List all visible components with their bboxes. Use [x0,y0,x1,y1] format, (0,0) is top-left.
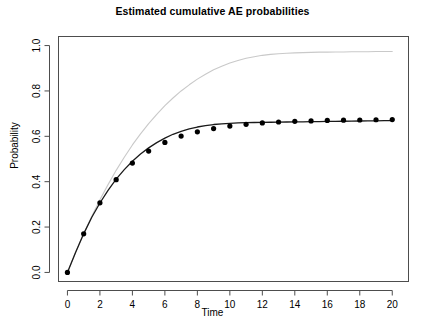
y-tick-label: 0.4 [31,174,42,188]
x-tick-label: 18 [354,299,366,310]
x-tick-label: 6 [162,299,168,310]
x-tick-label: 14 [289,299,301,310]
x-tick-label: 12 [257,299,269,310]
data-point [97,200,102,205]
y-tick-label: 0.2 [31,220,42,234]
data-point [227,124,232,129]
series-line [67,121,392,273]
data-point [211,126,216,131]
data-point [357,117,362,122]
plot-area: 024681012141618200.00.20.40.60.81.0 [0,0,425,330]
series-line [67,51,392,272]
x-tick-label: 8 [195,299,201,310]
data-point [325,118,330,123]
data-point [292,119,297,124]
x-tick-label: 10 [224,299,236,310]
data-point [308,118,313,123]
data-point [130,160,135,165]
data-point [179,133,184,138]
data-point [65,270,70,275]
data-point [373,117,378,122]
y-tick-label: 0.0 [31,265,42,279]
x-tick-label: 16 [322,299,334,310]
chart-figure: Estimated cumulative AE probabilities Ti… [0,0,425,330]
x-tick-label: 2 [97,299,103,310]
data-point [243,122,248,127]
y-tick-label: 1.0 [31,38,42,52]
data-point [195,129,200,134]
series-points [65,117,395,275]
data-point [81,231,86,236]
data-point [390,117,395,122]
data-point [341,118,346,123]
data-point [276,119,281,124]
y-tick-label: 0.8 [31,84,42,98]
y-tick-label: 0.6 [31,129,42,143]
plot-box-frame [59,37,409,282]
data-point [260,120,265,125]
x-tick-label: 0 [65,299,71,310]
data-point [114,177,119,182]
x-tick-label: 20 [387,299,399,310]
x-tick-label: 4 [130,299,136,310]
data-point [146,148,151,153]
data-point [162,140,167,145]
